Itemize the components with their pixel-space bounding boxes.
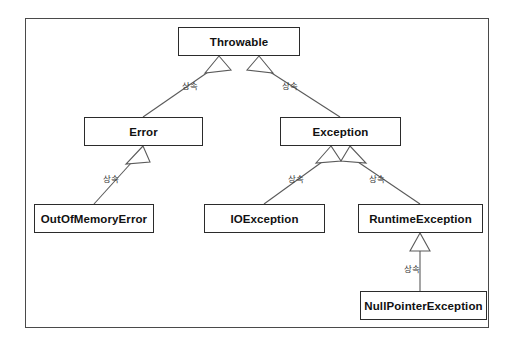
class-label-nullpointerexception: NullPointerException — [364, 300, 482, 312]
class-label-throwable: Throwable — [210, 36, 268, 48]
class-box-runtimeexception[interactable]: RuntimeException — [358, 204, 483, 233]
edge-label-nullpointerexception-runtimeexception: 상속 — [404, 262, 420, 274]
edge-label-exception-throwable: 상속 — [282, 79, 298, 91]
class-box-nullpointerexception[interactable]: NullPointerException — [360, 291, 487, 320]
class-label-ioexception: IOException — [230, 213, 298, 225]
edge-label-ioexception-exception: 상속 — [288, 172, 304, 184]
class-box-outofmemoryerror[interactable]: OutOfMemoryError — [34, 204, 154, 233]
class-box-exception[interactable]: Exception — [280, 117, 401, 146]
class-label-outofmemoryerror: OutOfMemoryError — [41, 213, 147, 225]
class-label-exception: Exception — [313, 126, 369, 138]
edge-label-outofmemoryerror-error: 상속 — [103, 172, 119, 184]
class-label-runtimeexception: RuntimeException — [369, 213, 472, 225]
diagram-canvas: Throwable Error Exception OutOfMemoryErr… — [0, 0, 507, 347]
edge-label-error-throwable: 상속 — [182, 79, 198, 91]
diagram-frame — [25, 18, 489, 328]
class-box-error[interactable]: Error — [84, 117, 203, 146]
class-box-ioexception[interactable]: IOException — [204, 204, 325, 233]
class-box-throwable[interactable]: Throwable — [178, 27, 300, 56]
edge-label-runtimeexception-exception: 상속 — [369, 172, 385, 184]
class-label-error: Error — [129, 126, 158, 138]
